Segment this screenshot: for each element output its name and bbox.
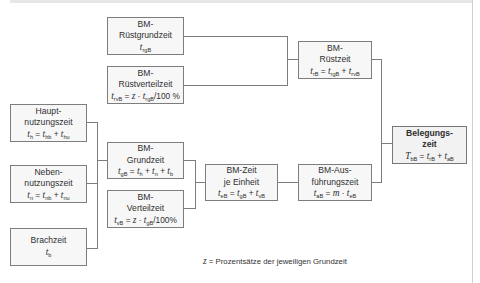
box-nebennutzungszeit: Neben- nutzungszeit tn = tnb + tnu <box>10 165 87 203</box>
box-label: Verteilzeit <box>127 203 164 215</box>
box-label: BM- <box>138 143 154 155</box>
box-label: BM- <box>327 43 343 55</box>
box-label: Grundzeit <box>127 155 164 167</box>
box-formula: tb <box>46 247 52 259</box>
box-label: Rüstzeit <box>319 54 350 66</box>
box-belegungszeit: Belegungs- zeit TbB = trB + taB <box>392 126 467 164</box>
box-label: nutzungszeit <box>24 178 72 190</box>
connector-ruestgrund <box>183 36 288 37</box>
bracket-belegung <box>381 59 382 183</box>
box-label: Rüstgrundzeit <box>119 30 172 42</box>
box-formula: th = thb + thu <box>27 129 69 141</box>
bracket-ruest <box>287 36 288 86</box>
box-formula: trvB = z · trgB/100 % <box>111 91 180 103</box>
box-formula: trB = trgB + trvB <box>310 66 359 78</box>
box-label: BM-Aus- <box>318 165 351 177</box>
box-label: zeit <box>422 139 436 151</box>
box-formula: TbB = trB + taB <box>405 151 454 163</box>
box-formula: tn = tnb + tnu <box>27 190 69 202</box>
box-hauptnutzungszeit: Haupt- nutzungszeit th = thb + thu <box>10 104 87 142</box>
box-label: führungszeit <box>312 177 359 189</box>
box-ruestverteilzeit: BM- Rüstverteilzeit trvB = z · trgB/100 … <box>107 66 184 104</box>
connector-ruestverteil <box>183 85 288 86</box>
box-label: Belegungs- <box>406 128 453 140</box>
box-formula: teB = tgB + tvB <box>218 188 265 200</box>
box-formula: taB = m · teB <box>314 188 357 200</box>
box-brachzeit: Brachzeit tb <box>10 228 87 266</box>
right-rule <box>472 0 473 283</box>
connector-to-ruestzeit <box>287 59 298 60</box>
bracket-grund-verteil <box>195 160 196 209</box>
box-formula: trgB <box>140 42 151 54</box>
box-formula: tgB = th + tn + tb <box>118 166 173 178</box>
connector-to-belegung <box>381 143 392 144</box>
connector-to-zeit-je-einheit <box>195 182 205 183</box>
box-ruestgrundzeit: BM- Rüstgrundzeit trgB <box>107 17 184 55</box>
box-label: BM- <box>138 19 154 31</box>
box-label: BM-Zeit <box>226 165 256 177</box>
box-label: Neben- <box>34 167 62 179</box>
box-zeit-je-einheit: BM-Zeit je Einheit teB = tgB + tvB <box>205 164 278 201</box>
footnote: z = Prozentsätze der jeweiligen Grundzei… <box>203 256 347 266</box>
box-ruestzeit: BM- Rüstzeit trB = trgB + trvB <box>298 41 372 79</box>
connector-to-ausfuehrung <box>278 182 298 183</box>
box-label: BM- <box>138 192 154 204</box>
top-rule <box>10 0 472 3</box>
box-verteilzeit: BM- Verteilzeit tvB = z · tgB/100% <box>107 190 184 228</box>
box-label: Rüstverteilzeit <box>119 79 173 91</box>
box-label: Haupt- <box>36 106 62 118</box>
box-label: je Einheit <box>224 177 259 189</box>
box-ausfuehrungszeit: BM-Aus- führungszeit taB = m · teB <box>298 164 372 201</box>
box-grundzeit: BM- Grundzeit tgB = th + tn + tb <box>107 142 184 179</box>
box-label: BM- <box>138 68 154 80</box>
box-formula: tvB = z · tgB/100% <box>114 215 177 227</box>
connector-to-grundzeit <box>97 160 107 161</box>
bracket-nutzung <box>97 122 98 249</box>
box-label: Brachzeit <box>31 235 67 247</box>
box-label: nutzungszeit <box>24 117 72 129</box>
